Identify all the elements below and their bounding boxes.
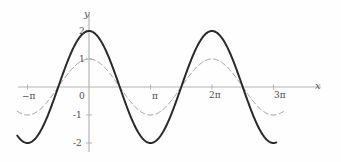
y-tick-label-neg-one: -1 <box>73 111 82 120</box>
x-tick-label-2pi: 2π <box>209 91 221 100</box>
plot-canvas <box>0 0 341 162</box>
x-axis-label: x <box>315 81 321 91</box>
x-tick-label-pi: π <box>152 92 158 101</box>
x-tick-label-3pi: 3π <box>274 91 286 100</box>
cosine-plot-figure: −π 0 π 2π 3π 2 1 -1 -2 y x <box>0 0 341 162</box>
y-tick-label-neg-two: -2 <box>73 139 82 148</box>
y-axis-label: y <box>84 9 90 19</box>
y-tick-label-one: 1 <box>79 55 85 64</box>
x-tick-label-neg-pi: −π <box>22 92 35 101</box>
y-tick-label-two: 2 <box>79 27 85 36</box>
x-tick-label-zero: 0 <box>79 92 85 101</box>
